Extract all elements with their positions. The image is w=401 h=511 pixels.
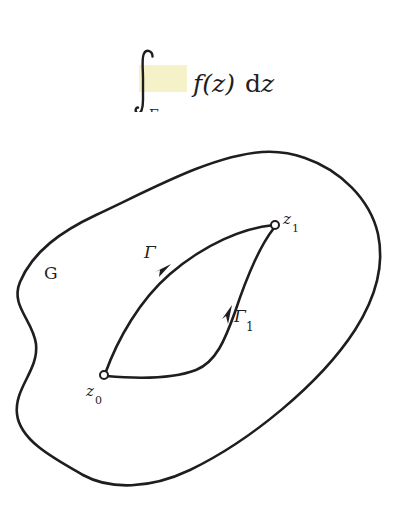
point-z1-marker [271, 221, 279, 229]
point-label-z1: z [282, 210, 291, 228]
contour-diagram: G Γ Γ 1 z 1 z 0 [0, 0, 401, 511]
curve-label-gamma-one: Γ [233, 306, 247, 326]
point-label-z0-subscript: 0 [95, 394, 102, 407]
region-boundary-g [17, 152, 380, 486]
curve-gamma-1 [106, 228, 274, 378]
curve-gamma [105, 225, 274, 374]
region-label-g: G [44, 263, 58, 283]
curve-label-gamma-one-subscript: 1 [246, 320, 254, 334]
point-label-z0: z [85, 382, 94, 400]
figure-page: Γ f(z) d z G Γ Γ 1 z 1 z 0 [0, 0, 401, 511]
point-label-z1-subscript: 1 [292, 222, 299, 235]
curve-label-gamma: Γ [143, 242, 157, 262]
point-z0-marker [100, 371, 108, 379]
